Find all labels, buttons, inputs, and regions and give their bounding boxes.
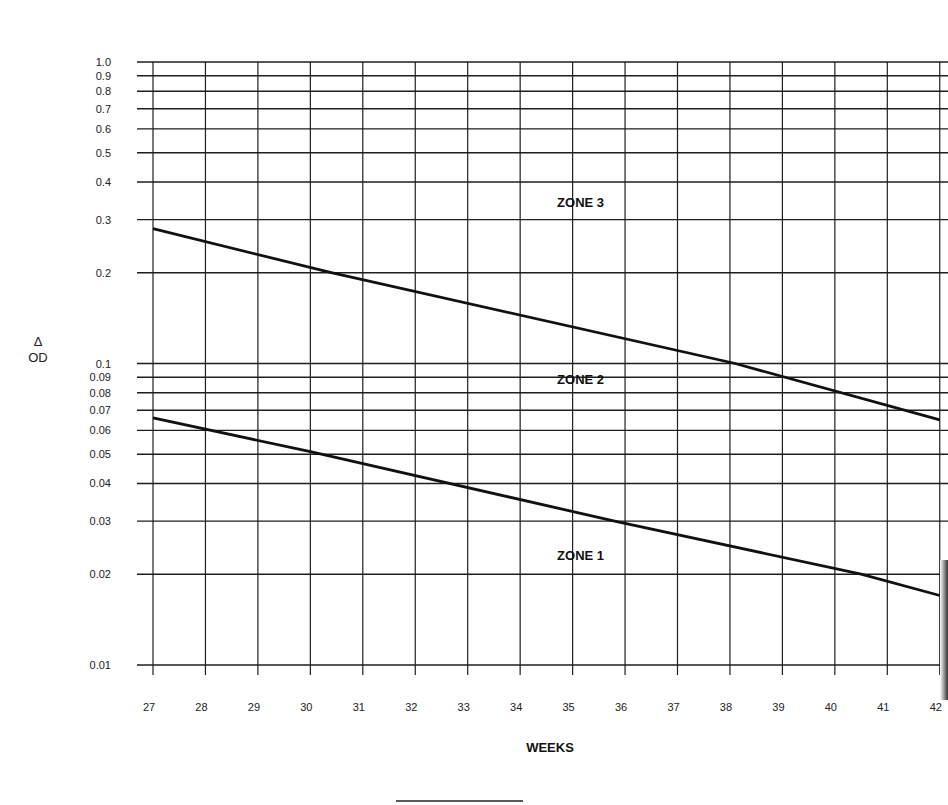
x-tick-label: 32 <box>405 701 417 713</box>
boundary-line <box>153 229 940 420</box>
y-tick-label: 0.1 <box>96 358 111 370</box>
horizontal-gridlines <box>137 62 948 665</box>
x-tick-label: 34 <box>510 701 522 713</box>
x-axis-title: WEEKS <box>526 740 574 755</box>
y-tick-label: 0.5 <box>96 147 111 159</box>
y-tick-label: 0.08 <box>90 387 111 399</box>
x-axis-tick-labels: 27282930313233343536373839404142 <box>143 701 942 713</box>
zone-label: ZONE 1 <box>557 548 604 563</box>
y-tick-label: 0.6 <box>96 123 111 135</box>
boundary-lines <box>153 229 940 596</box>
x-tick-label: 28 <box>195 701 207 713</box>
chart-canvas: 1.00.90.80.70.60.50.40.30.20.10.090.080.… <box>0 0 948 805</box>
scan-edge-shadow <box>940 560 948 700</box>
x-tick-label: 29 <box>248 701 260 713</box>
y-tick-label: 0.04 <box>90 477 111 489</box>
x-tick-label: 36 <box>615 701 627 713</box>
x-tick-label: 30 <box>300 701 312 713</box>
x-tick-label: 42 <box>930 701 942 713</box>
y-tick-label: 0.09 <box>90 371 111 383</box>
vertical-gridlines <box>153 62 940 675</box>
y-tick-label: 1.0 <box>96 56 111 68</box>
zone-labels: ZONE 3ZONE 2ZONE 1 <box>557 195 604 563</box>
x-tick-label: 40 <box>825 701 837 713</box>
y-tick-label: 0.7 <box>96 103 111 115</box>
x-tick-label: 39 <box>772 701 784 713</box>
x-tick-label: 27 <box>143 701 155 713</box>
x-tick-label: 35 <box>562 701 574 713</box>
y-tick-label: 0.4 <box>96 176 111 188</box>
y-axis-tick-labels: 1.00.90.80.70.60.50.40.30.20.10.090.080.… <box>90 56 111 671</box>
y-axis-title-delta: Δ <box>34 334 43 349</box>
y-axis-title-od: OD <box>28 350 48 365</box>
x-tick-label: 38 <box>720 701 732 713</box>
zone-label: ZONE 2 <box>557 372 604 387</box>
boundary-line <box>153 418 940 596</box>
zone-label: ZONE 3 <box>557 195 604 210</box>
y-tick-label: 0.01 <box>90 659 111 671</box>
y-tick-label: 0.9 <box>96 70 111 82</box>
y-tick-label: 0.07 <box>90 404 111 416</box>
y-tick-label: 0.02 <box>90 568 111 580</box>
x-tick-label: 33 <box>458 701 470 713</box>
y-tick-label: 0.06 <box>90 424 111 436</box>
y-tick-label: 0.05 <box>90 448 111 460</box>
x-tick-label: 31 <box>353 701 365 713</box>
x-tick-label: 37 <box>667 701 679 713</box>
x-tick-label: 41 <box>877 701 889 713</box>
y-tick-label: 0.2 <box>96 267 111 279</box>
y-tick-label: 0.3 <box>96 214 111 226</box>
y-tick-label: 0.8 <box>96 85 111 97</box>
y-tick-label: 0.03 <box>90 515 111 527</box>
